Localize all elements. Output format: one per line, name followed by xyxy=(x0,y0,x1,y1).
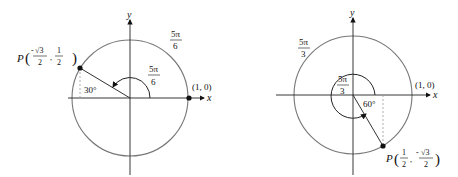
y-num: √3 xyxy=(421,148,429,157)
arc-label-num: 5π xyxy=(171,29,181,39)
y-den: 2 xyxy=(57,58,61,67)
y-axis-label: y xyxy=(126,9,132,20)
paren-open: ( xyxy=(394,151,399,168)
left-figure: y x (1, 0) 30° 5π 6 5π 6 P ( - √3 2 , 1 … xyxy=(16,9,212,175)
angle-label-num: 5π xyxy=(338,74,348,84)
paren-open: ( xyxy=(25,50,30,67)
angle-label-den: 3 xyxy=(340,86,345,96)
paren-close: ) xyxy=(435,151,440,168)
x-axis-label: x xyxy=(432,89,438,100)
point-p xyxy=(380,143,385,148)
arc-label-den: 3 xyxy=(301,49,306,59)
reference-angle-label: 30° xyxy=(84,85,97,95)
x-axis-label: x xyxy=(206,92,212,103)
comma: , xyxy=(50,53,52,62)
reference-angle-label: 60° xyxy=(363,99,376,109)
unit-circle-diagrams: y x (1, 0) 30° 5π 6 5π 6 P ( - √3 2 , 1 … xyxy=(0,0,458,177)
angle-label-num: 5π xyxy=(149,64,159,74)
x-sign: - xyxy=(31,46,34,55)
y-den: 2 xyxy=(424,160,428,169)
point-p xyxy=(77,65,82,70)
angle-label-den: 6 xyxy=(151,77,156,87)
paren-close: ) xyxy=(72,50,77,67)
point-name: P xyxy=(385,152,393,164)
x-den: 2 xyxy=(402,160,406,169)
y-sign: - xyxy=(416,148,419,157)
point-name: P xyxy=(16,52,24,64)
x-num: √3 xyxy=(35,46,43,55)
comma: , xyxy=(410,155,412,164)
x-num: 1 xyxy=(402,148,406,157)
y-num: 1 xyxy=(57,46,61,55)
angle-arc xyxy=(113,78,150,98)
start-point-label: (1, 0) xyxy=(415,80,435,90)
start-point-label: (1, 0) xyxy=(192,82,212,92)
right-figure: y x (1, 0) 60° 5π 3 5π 3 P ( 1 2 , - √3 … xyxy=(276,7,440,175)
arc-label-num: 5π xyxy=(299,37,309,47)
point-1-0 xyxy=(186,95,191,100)
y-axis-label: y xyxy=(349,7,355,18)
arc-label-den: 6 xyxy=(173,41,178,51)
x-den: 2 xyxy=(38,58,42,67)
